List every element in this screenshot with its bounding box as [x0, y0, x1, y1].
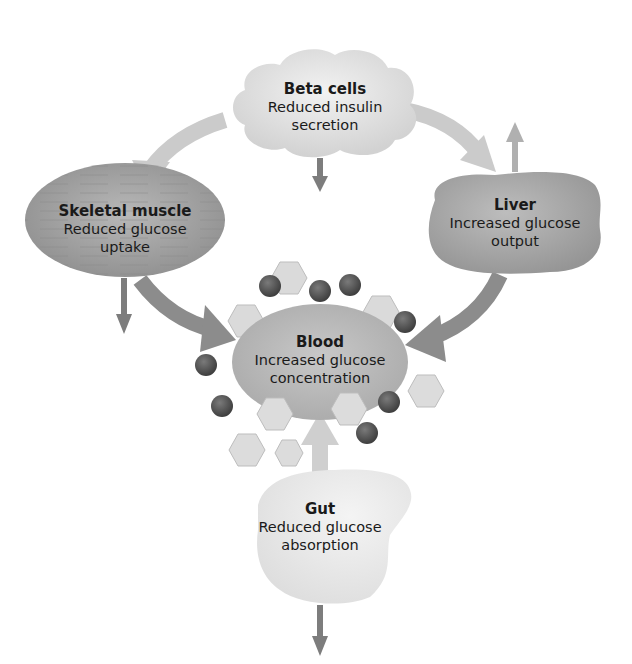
- liver-desc-1: Increased glucose: [430, 214, 600, 232]
- blood-label: Blood Increased glucose concentration: [230, 333, 410, 387]
- liver-label: Liver Increased glucose output: [430, 196, 600, 250]
- beta-cells-title: Beta cells: [240, 80, 410, 98]
- blood-desc-2: concentration: [230, 369, 410, 387]
- arrow-muscle-to-blood: [140, 280, 236, 352]
- beta-cells-desc-2: secretion: [240, 116, 410, 134]
- skeletal-muscle-label: Skeletal muscle Reduced glucose uptake: [35, 202, 215, 256]
- arrow-beta-to-liver: [405, 110, 496, 172]
- beta-cells-down-arrow-icon: [312, 158, 328, 192]
- liver-desc-2: output: [430, 232, 600, 250]
- beta-cells-label: Beta cells Reduced insulin secretion: [240, 80, 410, 134]
- skeletal-muscle-desc-2: uptake: [35, 238, 215, 256]
- liver-up-arrow-icon: [506, 122, 524, 172]
- gut-label: Gut Reduced glucose absorption: [240, 500, 400, 554]
- gut-desc-1: Reduced glucose: [240, 518, 400, 536]
- liver-title: Liver: [430, 196, 600, 214]
- blood-desc-1: Increased glucose: [230, 351, 410, 369]
- gut-down-arrow-icon: [312, 605, 328, 656]
- skeletal-muscle-desc-1: Reduced glucose: [35, 220, 215, 238]
- gut-desc-2: absorption: [240, 536, 400, 554]
- arrow-liver-to-blood: [405, 275, 500, 362]
- gut-title: Gut: [240, 500, 400, 518]
- muscle-down-arrow-icon: [116, 278, 132, 334]
- beta-cells-desc-1: Reduced insulin: [240, 98, 410, 116]
- blood-title: Blood: [230, 333, 410, 351]
- skeletal-muscle-title: Skeletal muscle: [35, 202, 215, 220]
